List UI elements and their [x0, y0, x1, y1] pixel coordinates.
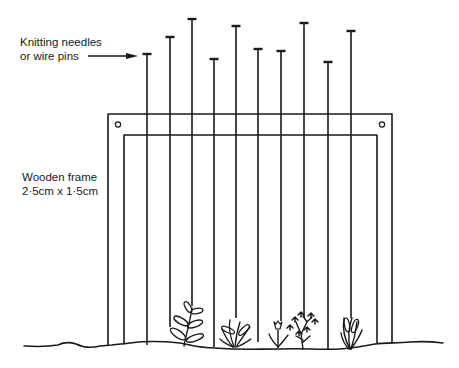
needle-7 [277, 51, 286, 321]
plant-flowering-bush [287, 312, 318, 349]
needle-6 [254, 49, 263, 342]
plants-group [169, 301, 362, 349]
needle-10 [347, 31, 356, 318]
leaf-left [269, 334, 278, 347]
needle-8 [300, 23, 309, 318]
needles-group [143, 19, 356, 349]
arrowhead-icon [126, 53, 138, 59]
plant-leafy-sprig [169, 301, 205, 346]
needle-5 [232, 26, 241, 318]
needle-9 [324, 62, 333, 349]
frame-hole-left [115, 122, 120, 127]
flower-sprig [287, 325, 293, 330]
needle-1 [143, 54, 152, 345]
frame-label-line-2: 2·5cm x 1·5cm [22, 184, 98, 198]
frame-label: Wooden frame 2·5cm x 1·5cm [22, 170, 98, 198]
needles-label-line-1: Knitting needles [20, 35, 102, 49]
leaf-right [278, 335, 288, 347]
frame-label-line-1: Wooden frame [22, 170, 98, 184]
plant-tulip-bud [269, 321, 288, 347]
needle-2 [166, 37, 175, 327]
wooden-frame [108, 114, 392, 345]
flower-sprig [292, 317, 298, 322]
leaf [186, 332, 205, 344]
needles-label: Knitting needles or wire pins [20, 35, 102, 63]
diagram-canvas: Knitting needles or wire pins Wooden fra… [0, 0, 459, 368]
leaf [169, 326, 188, 342]
needle-4 [210, 59, 219, 347]
leaf [221, 325, 236, 335]
flower-sprig [308, 313, 314, 318]
leaf [186, 318, 203, 329]
flower-sprig [312, 319, 318, 324]
needles-label-line-2: or wire pins [20, 49, 102, 63]
needle-3 [188, 19, 197, 306]
frame-outer-edge [108, 114, 392, 345]
bud [274, 321, 282, 329]
frame-hole-right [379, 122, 384, 127]
plant-grass-tuft [220, 320, 251, 347]
frame-inner-edge [124, 135, 377, 344]
plant-spiky-tuft [341, 318, 362, 349]
blade [220, 339, 233, 347]
